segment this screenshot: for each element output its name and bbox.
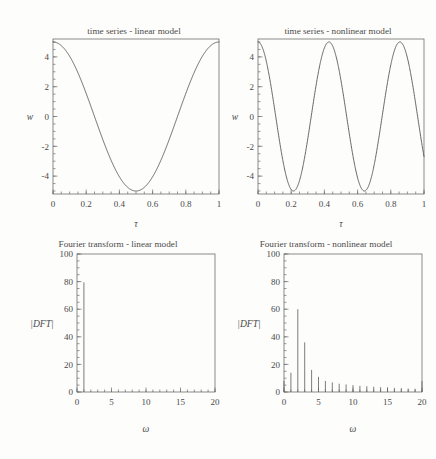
y-tick-label: 4 — [45, 52, 50, 62]
x-axis-label: ω — [350, 423, 357, 434]
x-axis-ticks: 05101520 — [282, 388, 427, 408]
spectrum-spikes-linear — [84, 282, 215, 392]
x-tick-label: 0.4 — [319, 199, 331, 209]
y-tick-label: 0 — [45, 112, 50, 122]
panel-time-series-linear: time series - linear model -4-2024 00.20… — [0, 22, 218, 234]
x-tick-label: 10 — [349, 397, 359, 407]
y-tick-label: 2 — [45, 82, 50, 92]
y-tick-label: 20 — [64, 360, 74, 370]
series-curve-nonlinear — [258, 42, 424, 191]
y-tick-label: 40 — [64, 332, 74, 342]
y-tick-label: 60 — [64, 304, 74, 314]
y-axis-ticks: 020406080100 — [267, 249, 289, 397]
plot-frame — [53, 39, 219, 194]
x-tick-label: 15 — [383, 397, 393, 407]
x-tick-label: 0 — [282, 397, 287, 407]
y-tick-label: 2 — [250, 82, 255, 92]
x-axis-ticks: 00.20.40.60.81 — [51, 190, 222, 210]
panel-title: time series - linear model — [87, 26, 181, 36]
x-tick-label: 0.2 — [286, 199, 297, 209]
figure-four-panel: time series - linear model -4-2024 00.20… — [0, 0, 436, 459]
y-tick-label: -2 — [247, 142, 255, 152]
y-tick-label: 0 — [69, 387, 74, 397]
y-axis-ticks: -4-2024 — [247, 42, 263, 191]
x-tick-label: 15 — [176, 397, 186, 407]
panel-title: Fourier transform - nonlinear model — [260, 239, 393, 249]
y-axis-label: w — [232, 111, 239, 122]
x-axis-label: τ — [339, 218, 343, 229]
y-tick-label: 0 — [250, 112, 255, 122]
x-tick-label: 0 — [256, 199, 261, 209]
y-tick-label: -4 — [42, 171, 50, 181]
panel-title: time series - nonlinear model — [284, 26, 392, 36]
y-tick-label: -4 — [247, 171, 255, 181]
x-tick-label: 5 — [109, 397, 114, 407]
plot-frame — [258, 39, 424, 194]
y-tick-label: 4 — [250, 52, 255, 62]
y-tick-label: 80 — [64, 277, 74, 287]
panel-fourier-nonlinear: Fourier transform - nonlinear model 0204… — [218, 236, 436, 456]
x-tick-label: 0.4 — [114, 199, 126, 209]
x-axis-ticks: 00.20.40.60.81 — [256, 190, 427, 210]
x-tick-label: 0 — [51, 199, 56, 209]
x-tick-label: 0.8 — [180, 199, 192, 209]
spectrum-spikes-nonlinear — [284, 309, 422, 392]
plot-frame — [77, 254, 215, 392]
y-tick-label: 100 — [267, 249, 281, 259]
y-tick-label: 20 — [271, 360, 281, 370]
y-tick-label: 0 — [276, 387, 281, 397]
x-tick-label: 0.8 — [385, 199, 397, 209]
y-axis-label: w — [27, 111, 34, 122]
panel-fourier-linear: Fourier transform - linear model 0204060… — [0, 236, 218, 456]
y-tick-label: -2 — [42, 142, 50, 152]
y-tick-label: 100 — [60, 249, 74, 259]
x-tick-label: 5 — [316, 397, 321, 407]
x-axis-label: ω — [143, 423, 150, 434]
x-tick-label: 0.2 — [81, 199, 92, 209]
x-axis-ticks: 05101520 — [75, 388, 220, 408]
series-curve-linear — [53, 42, 219, 191]
y-tick-label: 60 — [271, 304, 281, 314]
x-tick-label: 0.6 — [352, 199, 364, 209]
x-tick-label: 1 — [422, 199, 427, 209]
y-axis-ticks: -4-2024 — [42, 42, 58, 191]
x-tick-label: 20 — [418, 397, 428, 407]
panel-title: Fourier transform - linear model — [59, 239, 178, 249]
y-tick-label: 80 — [271, 277, 281, 287]
x-tick-label: 0.6 — [147, 199, 159, 209]
y-axis-label: |DFT| — [237, 318, 260, 329]
y-tick-label: 40 — [271, 332, 281, 342]
x-tick-label: 0 — [75, 397, 80, 407]
y-axis-label: |DFT| — [30, 318, 53, 329]
y-axis-ticks: 020406080100 — [60, 249, 82, 397]
x-axis-label: τ — [134, 218, 138, 229]
panel-time-series-nonlinear: time series - nonlinear model -4-2024 00… — [218, 22, 436, 234]
x-tick-label: 10 — [142, 397, 152, 407]
